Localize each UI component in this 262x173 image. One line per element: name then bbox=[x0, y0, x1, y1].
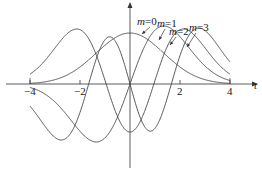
series-label-m2: m=2 bbox=[169, 25, 189, 37]
y-axis-arrow-icon bbox=[128, 2, 133, 8]
x-tick-label: 4 bbox=[227, 85, 233, 97]
x-tick-label: 2 bbox=[177, 85, 183, 97]
x-tick-label: −4 bbox=[24, 85, 36, 97]
arrowhead-icon bbox=[187, 43, 190, 47]
series-label-m3: m=3 bbox=[189, 21, 209, 33]
x-tick-label: −2 bbox=[74, 85, 86, 97]
x-axis-label: t bbox=[254, 79, 258, 91]
plot-area: t −4−224 m=0m=1m=2m=3 bbox=[0, 0, 262, 173]
series-labels: m=0m=1m=2m=3 bbox=[137, 15, 209, 47]
arrowhead-icon bbox=[170, 41, 173, 45]
series-label-m0: m=0 bbox=[137, 15, 157, 27]
chart: t −4−224 m=0m=1m=2m=3 bbox=[0, 0, 262, 173]
